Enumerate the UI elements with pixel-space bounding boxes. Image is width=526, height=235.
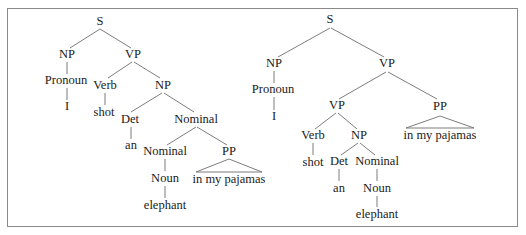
node-Verb: Verb — [301, 128, 325, 142]
node-PP: PP — [222, 144, 236, 158]
node-NP: NP — [266, 56, 282, 70]
parse-tree-diagram: S NP VP Pronoun I Verb NP shot Det Nomin… — [0, 0, 526, 235]
node-NP-object: NP — [351, 128, 367, 142]
node-PP: PP — [433, 99, 447, 113]
node-VP: VP — [379, 56, 395, 70]
leaf-shot: shot — [94, 105, 115, 119]
node-Nominal: Nominal — [174, 112, 218, 126]
node-NP-object: NP — [155, 78, 171, 92]
node-Noun: Noun — [363, 181, 392, 195]
leaf-shot: shot — [303, 155, 324, 169]
node-Verb: Verb — [93, 78, 117, 92]
leaf-I: I — [65, 99, 69, 113]
node-Det: Det — [121, 112, 140, 126]
right-parse-tree: S NP VP Pronoun I VP PP in my pajamas Ve… — [252, 12, 477, 221]
node-Noun: Noun — [151, 171, 180, 185]
node-VP-inner: VP — [329, 98, 345, 112]
leaf-I: I — [272, 109, 276, 123]
leaf-an: an — [333, 181, 346, 195]
leaf-elephant: elephant — [356, 207, 399, 221]
leaf-elephant: elephant — [144, 198, 187, 212]
node-S: S — [327, 12, 334, 26]
node-VP: VP — [125, 47, 141, 61]
node-S: S — [97, 14, 104, 28]
leaf-in-my-pajamas: in my pajamas — [193, 172, 266, 186]
leaf-in-my-pajamas: in my pajamas — [404, 128, 477, 142]
node-Pronoun: Pronoun — [252, 82, 295, 96]
node-Det: Det — [330, 154, 349, 168]
node-Pronoun: Pronoun — [45, 73, 88, 87]
node-Nominal-inner: Nominal — [143, 144, 187, 158]
node-NP: NP — [59, 47, 75, 61]
left-parse-tree: S NP VP Pronoun I Verb NP shot Det Nomin… — [45, 14, 266, 212]
leaf-an: an — [125, 138, 138, 152]
node-Nominal: Nominal — [355, 154, 399, 168]
